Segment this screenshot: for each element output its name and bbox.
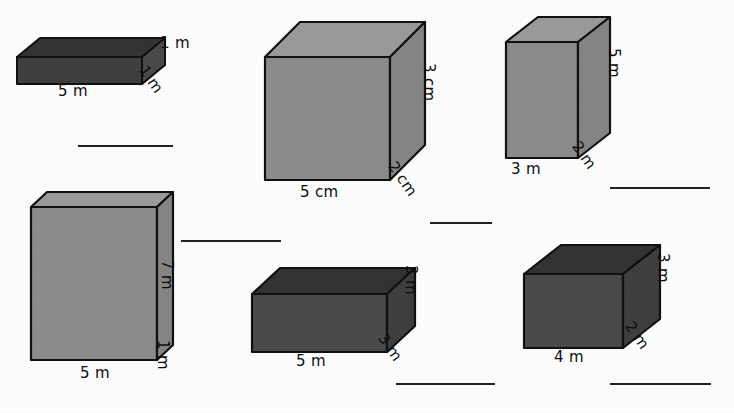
cuboid-3-height-label: 5 m (605, 48, 623, 78)
worksheet-canvas: 5 m 1 m 1 m 5 cm 3 cm 2 cm 3 m 5 m 2 m 5… (0, 0, 734, 413)
cuboid-5-front-face (252, 294, 387, 352)
cuboid-4-top-face (31, 192, 173, 207)
answer-line-4[interactable] (430, 222, 492, 224)
cuboid-2-front-face (265, 57, 390, 180)
answer-line-6[interactable] (610, 383, 711, 385)
cuboid-figure-3 (498, 10, 623, 165)
cuboid-5-width-label: 5 m (296, 352, 326, 370)
cuboid-4-height-label: 7 m (158, 260, 176, 290)
answer-line-2[interactable] (610, 187, 710, 189)
cuboid-4-width-label: 5 m (80, 364, 110, 382)
cuboid-4-front-face (31, 207, 157, 360)
cuboid-6-front-face (524, 274, 623, 348)
cuboid-2-height-label: 3 cm (420, 63, 438, 101)
answer-line-1[interactable] (78, 145, 173, 147)
cuboid-6-height-label: 3 m (654, 253, 672, 283)
answer-line-3[interactable] (181, 240, 281, 242)
cuboid-figure-2 (255, 15, 435, 190)
cuboid-4-depth-label: 1 m (154, 340, 172, 370)
answer-line-5[interactable] (396, 383, 495, 385)
cuboid-1-height-label: 1 m (160, 34, 190, 52)
cuboid-5-height-label: 3 m (402, 265, 420, 295)
cuboid-3-front-face (506, 42, 578, 158)
cuboid-2-width-label: 5 cm (300, 183, 338, 201)
cuboid-1-front-face (17, 57, 142, 84)
cuboid-1-top-face (17, 38, 165, 57)
cuboid-3-width-label: 3 m (511, 160, 541, 178)
cuboid-1-width-label: 5 m (58, 82, 88, 100)
cuboid-6-width-label: 4 m (554, 348, 584, 366)
